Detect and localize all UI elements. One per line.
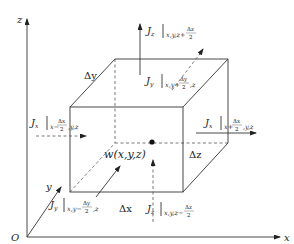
x-axis-label: x — [284, 232, 290, 243]
svg-text:2: 2 — [182, 84, 186, 90]
svg-text:2: 2 — [187, 212, 191, 218]
svg-text:Jx: Jx — [29, 117, 39, 129]
jz-bottom-label: Jz x,y,z− Δz 2 — [145, 202, 194, 218]
svg-text:2: 2 — [60, 126, 64, 132]
svg-text:x−: x− — [50, 123, 59, 131]
jy-back-label: Jy x,y+ Δy 2 ,z — [144, 74, 196, 90]
center-point-dot — [149, 139, 154, 144]
svg-text:2: 2 — [235, 126, 239, 132]
svg-text:,y,z: ,y,z — [68, 123, 79, 131]
svg-text:Δz: Δz — [187, 26, 194, 32]
svg-text:x,y,z+: x,y,z+ — [166, 31, 185, 39]
svg-text:,z: ,z — [93, 205, 99, 213]
jy-front-label: Jy x,y− Δy 2 ,z — [48, 198, 99, 214]
svg-text:x+: x+ — [224, 123, 233, 131]
svg-text:Δx: Δx — [233, 118, 241, 124]
svg-text:Jy: Jy — [48, 199, 58, 212]
jy-back-arrow — [199, 49, 203, 55]
svg-text:x,y+: x,y+ — [165, 81, 180, 89]
svg-text:,z: ,z — [190, 81, 196, 89]
svg-text:Jz: Jz — [145, 203, 155, 215]
jx-left-label: Jx x− Δx 2 ,y,z — [29, 116, 79, 132]
svg-text:x,y,z−: x,y,z− — [164, 209, 183, 217]
svg-text:Δy: Δy — [83, 200, 91, 207]
diagram-canvas: z x y O w(x,y,z) Δy Δx Δz Jz x,y — [0, 0, 294, 244]
svg-text:Δz: Δz — [185, 204, 192, 210]
svg-text:,y,z: ,y,z — [243, 123, 254, 131]
svg-text:Δx: Δx — [58, 118, 66, 124]
origin-label: O — [11, 232, 19, 243]
svg-text:x,y−: x,y− — [67, 205, 82, 213]
svg-text:Δy: Δy — [180, 76, 188, 83]
jz-top-label: Jz x,y,z+ Δz 2 — [145, 24, 196, 40]
dx-label: Δx — [119, 203, 132, 214]
svg-text:Jy: Jy — [144, 75, 154, 88]
y-axis — [27, 187, 61, 237]
dz-label: Δz — [189, 149, 202, 160]
y-axis-label: y — [45, 181, 52, 192]
z-axis-label: z — [16, 14, 23, 25]
dy-label: Δy — [84, 70, 97, 81]
center-point-label: w(x,y,z) — [104, 148, 146, 161]
svg-text:2: 2 — [85, 208, 89, 214]
svg-text:Jz: Jz — [145, 25, 155, 37]
jx-right-label: Jx x+ Δx 2 ,y,z — [203, 116, 254, 132]
svg-text:Jx: Jx — [203, 117, 213, 129]
svg-text:2: 2 — [189, 34, 193, 40]
